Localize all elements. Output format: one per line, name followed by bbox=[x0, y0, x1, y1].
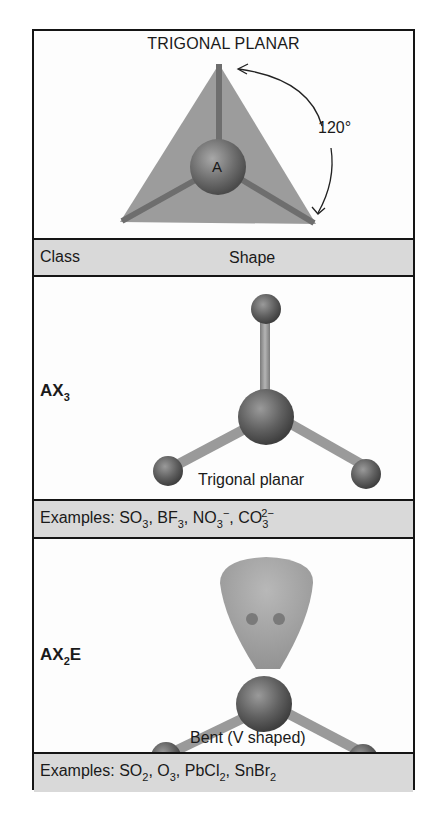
examples-text: Examples: SO2, O3, PbCl2, SnBr2 bbox=[40, 762, 276, 780]
bent-molecule bbox=[34, 539, 417, 753]
column-header-class: Class bbox=[40, 248, 80, 266]
ligand-atom-right bbox=[351, 459, 381, 489]
trigonal-planar-overview: TRIGONAL PLANAR A 120° bbox=[34, 31, 413, 238]
table-header: Class Shape bbox=[34, 238, 413, 277]
examples-text: Examples: SO3, BF3, NO3−, CO32− bbox=[40, 509, 274, 527]
arrowhead-icon bbox=[312, 207, 325, 214]
shape-name: Bent (V shaped) bbox=[190, 729, 306, 747]
examples-row-ax3: Examples: SO3, BF3, NO3−, CO32− bbox=[34, 499, 413, 539]
bond-angle-label: 120° bbox=[318, 119, 351, 137]
trigonal-planar-molecule bbox=[34, 277, 417, 501]
lone-pair-lobe bbox=[220, 557, 313, 669]
row-ax2e: AX2E Bent (V shaped) bbox=[34, 539, 413, 753]
row-ax3: AX3 Trigonal planar bbox=[34, 277, 413, 501]
ligand-atom-left bbox=[153, 456, 183, 486]
shape-name: Trigonal planar bbox=[198, 471, 304, 489]
angle-arc-lower bbox=[318, 148, 332, 213]
lone-pair-electron bbox=[246, 613, 258, 625]
central-atom bbox=[236, 676, 292, 732]
ligand-atom-top bbox=[251, 294, 281, 324]
examples-row-ax2e: Examples: SO2, O3, PbCl2, SnBr2 bbox=[34, 752, 413, 792]
trigonal-planar-diagram bbox=[34, 31, 417, 238]
column-header-shape: Shape bbox=[229, 249, 275, 267]
central-atom-label: A bbox=[212, 158, 222, 175]
vsepr-figure-frame: TRIGONAL PLANAR A 120° Class Shape bbox=[32, 29, 415, 790]
angle-arc-upper bbox=[239, 69, 322, 126]
central-atom bbox=[238, 389, 294, 445]
lone-pair-electron bbox=[273, 613, 285, 625]
